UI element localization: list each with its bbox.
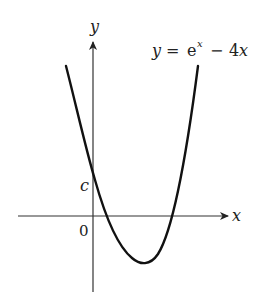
equation-exponent: x <box>197 38 203 49</box>
equation-equals: = <box>166 41 179 60</box>
x-axis-label: x <box>232 206 241 225</box>
function-graph: y x 0 c y = e x − 4 x <box>0 0 261 308</box>
equation-base: e <box>187 41 196 60</box>
origin-label: 0 <box>79 222 89 240</box>
y-axis-label: y <box>89 17 100 36</box>
equation-minus: − <box>210 41 223 60</box>
equation-var: x <box>239 41 248 60</box>
equation-coefficient: 4 <box>229 41 239 60</box>
y-intercept-label: c <box>80 176 89 195</box>
equation-label: y = e x − 4 x <box>151 38 248 60</box>
equation-y: y <box>151 41 162 60</box>
